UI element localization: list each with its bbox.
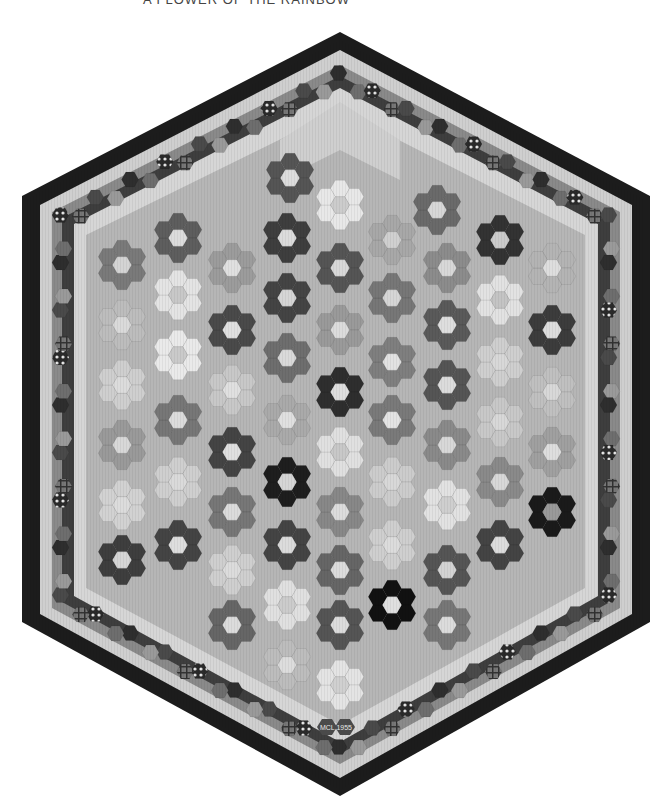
quilt-image: MCL 1955 <box>0 0 672 803</box>
signature-text: MCL 1955 <box>320 724 352 731</box>
